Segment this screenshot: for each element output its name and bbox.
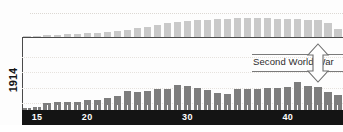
bar-slot <box>82 14 92 38</box>
bar-slot <box>92 14 102 38</box>
bar <box>174 22 181 38</box>
bar <box>254 18 261 38</box>
bar-slot <box>132 37 142 110</box>
bar-slot <box>293 14 303 38</box>
bar-slot <box>52 37 62 110</box>
chart-figure: Second World War 15203040 1914 <box>0 0 343 132</box>
x-axis-tick-label: 30 <box>182 111 193 124</box>
bar-slot <box>102 14 112 38</box>
bar-slot <box>52 14 62 38</box>
bar-slot <box>233 14 243 38</box>
bar-slot <box>213 37 223 110</box>
bar-slot <box>132 14 142 38</box>
bar-slot <box>82 37 92 110</box>
bar-slot <box>42 14 52 38</box>
bar-slot <box>243 14 253 38</box>
bar-slot <box>233 37 243 110</box>
bar <box>314 20 321 38</box>
bar-slot <box>193 37 203 110</box>
y-axis-year-label: 1914 <box>7 60 19 100</box>
bar-slot <box>122 14 132 38</box>
bar <box>304 20 311 38</box>
bar-slot <box>62 14 72 38</box>
bar-slot <box>92 37 102 110</box>
bar-slot <box>263 37 273 110</box>
bar-slot <box>193 14 203 38</box>
bar-slot <box>313 14 323 38</box>
bar-slot <box>203 14 213 38</box>
bar-slot <box>293 37 303 110</box>
bar-slot <box>112 37 122 110</box>
bar <box>234 18 241 38</box>
x-axis-tick-label: 15 <box>32 111 43 124</box>
bar-slot <box>32 14 42 38</box>
bar-slot <box>303 14 313 38</box>
bar-slot <box>142 14 152 38</box>
bar-slot <box>283 37 293 110</box>
footer-strip <box>0 125 343 132</box>
x-axis: 15203040 <box>22 110 343 125</box>
bar <box>164 23 171 38</box>
bar-slot <box>42 37 52 110</box>
bar-slot <box>172 14 182 38</box>
bar-slot <box>152 14 162 38</box>
bar <box>284 19 291 38</box>
bar-slot <box>72 37 82 110</box>
bar-slot <box>243 37 253 110</box>
bar-slot <box>62 37 72 110</box>
bar-slot <box>253 37 263 110</box>
bar-slot <box>223 14 233 38</box>
bar-slot <box>203 37 213 110</box>
bar <box>244 18 251 38</box>
bar <box>274 19 281 38</box>
lower-bar-series <box>22 37 343 110</box>
bar <box>184 21 191 38</box>
bar <box>204 20 211 38</box>
bar-slot <box>273 14 283 38</box>
x-axis-tick-label: 20 <box>82 111 93 124</box>
bar-slot <box>102 37 112 110</box>
bar-slot <box>333 37 343 110</box>
double-headed-vertical-arrow-icon <box>303 43 333 83</box>
bar-slot <box>183 37 193 110</box>
bar-slot <box>152 37 162 110</box>
bar-slot <box>112 14 122 38</box>
bar-slot <box>323 14 333 38</box>
bar-slot <box>213 14 223 38</box>
x-axis-tick-label: 40 <box>282 111 293 124</box>
upper-bar-series <box>22 14 343 38</box>
bar <box>224 19 231 38</box>
bar <box>264 18 271 38</box>
bar-slot <box>142 37 152 110</box>
bar-slot <box>162 14 172 38</box>
bar-slot <box>263 14 273 38</box>
bar <box>214 19 221 38</box>
bar-slot <box>22 37 32 110</box>
bar-slot <box>72 14 82 38</box>
bar <box>294 19 301 38</box>
bar-slot <box>333 14 343 38</box>
bar <box>194 20 201 38</box>
bar-slot <box>172 37 182 110</box>
bar-slot <box>253 14 263 38</box>
bar-slot <box>22 14 32 38</box>
bar <box>324 23 331 38</box>
bar-slot <box>273 37 283 110</box>
bar-slot <box>162 37 172 110</box>
bar-slot <box>122 37 132 110</box>
bar-slot <box>32 37 42 110</box>
bar-slot <box>223 37 233 110</box>
bar-slot <box>283 14 293 38</box>
bar-slot <box>183 14 193 38</box>
